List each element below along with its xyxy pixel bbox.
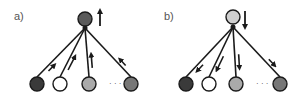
flow-arrow-icon — [197, 65, 203, 71]
flow-arrow-icon — [239, 54, 240, 68]
bottom-node — [124, 77, 138, 91]
ellipsis: · · · — [256, 79, 268, 88]
bottom-node — [53, 77, 67, 91]
hub-junction — [231, 25, 236, 30]
panel-b: b)· · · — [164, 10, 287, 91]
edge — [233, 27, 236, 77]
edge — [37, 28, 85, 77]
bottom-node — [30, 77, 44, 91]
bottom-node — [179, 77, 193, 91]
bottom-node — [229, 77, 243, 91]
panel-a: a)· · · — [14, 10, 138, 91]
flow-arrow-icon — [91, 55, 92, 68]
panel-label: b) — [164, 10, 174, 22]
edge — [85, 28, 131, 77]
bottom-node — [82, 77, 96, 91]
panel-label: a) — [14, 10, 24, 22]
ellipsis: · · · — [109, 79, 121, 88]
flow-arrow-icon — [269, 59, 275, 65]
edge — [233, 27, 280, 77]
bottom-node — [273, 77, 287, 91]
edge — [209, 27, 233, 77]
top-node — [226, 10, 240, 24]
edge — [85, 28, 89, 77]
top-node — [78, 12, 92, 26]
flow-arrow-icon — [120, 60, 126, 66]
edge — [60, 28, 85, 77]
flow-arrow-icon — [48, 65, 54, 71]
bottom-node — [202, 77, 216, 91]
edge — [186, 27, 233, 77]
diagram-canvas: a)· · · b)· · · — [0, 0, 305, 99]
